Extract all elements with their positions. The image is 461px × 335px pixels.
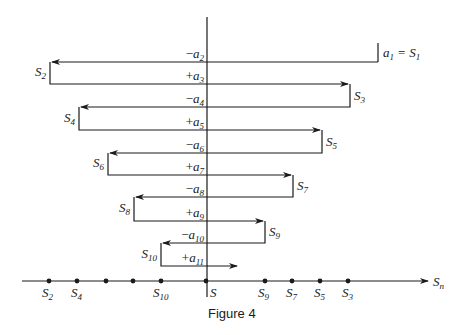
label-a6: −a6 <box>186 137 205 154</box>
nl-label-s4: S4 <box>71 285 83 302</box>
label-a3: +a3 <box>186 68 205 85</box>
arrow-minus-a10 <box>163 221 265 243</box>
figure-caption: Figure 4 <box>208 306 256 321</box>
label-a2: −a2 <box>186 46 205 63</box>
label-s6: S6 <box>93 155 105 172</box>
nl-label-s: S <box>210 285 217 300</box>
arrow-minus-a6 <box>110 130 322 153</box>
number-line-labels: S2 S4 S10 S S9 S7 S5 S3 <box>42 285 354 302</box>
label-s8: S8 <box>119 200 131 217</box>
label-a5: +a5 <box>186 114 205 131</box>
nl-label-s10: S10 <box>153 285 169 302</box>
nl-label-s5: S5 <box>314 285 326 302</box>
label-s9: S9 <box>269 224 281 241</box>
nl-label-s3: S3 <box>342 285 354 302</box>
a1-equals-s1-label: a1=S1 <box>383 45 420 62</box>
arrow-minus-a8 <box>136 175 293 197</box>
label-s4: S4 <box>64 110 76 127</box>
nl-label-s9: S9 <box>258 285 270 302</box>
label-s10: S10 <box>142 246 158 263</box>
label-a4: −a4 <box>186 91 205 108</box>
label-a8: −a8 <box>186 181 205 198</box>
label-a9: +a9 <box>186 205 205 222</box>
nl-label-s7: S7 <box>286 285 298 302</box>
label-s2: S2 <box>35 64 47 81</box>
label-s7: S7 <box>297 178 309 195</box>
label-a7: +a7 <box>186 159 205 176</box>
step-labels: −a2 +a3 −a4 +a5 −a6 +a7 −a8 +a9 −a10 +a1… <box>181 46 204 267</box>
axis-label-sn: Sn <box>433 274 445 291</box>
label-s3: S3 <box>354 88 366 105</box>
arrow-minus-a4 <box>81 84 350 107</box>
label-a11: +a11 <box>182 250 204 267</box>
label-a10: −a10 <box>181 227 204 244</box>
nl-label-s2: S2 <box>42 285 54 302</box>
label-s5: S5 <box>326 134 338 151</box>
alternating-series-diagram: a1=S1 −a2 +a3 −a4 +a5 −a6 +a7 −a8 +a9 −a… <box>0 0 461 335</box>
